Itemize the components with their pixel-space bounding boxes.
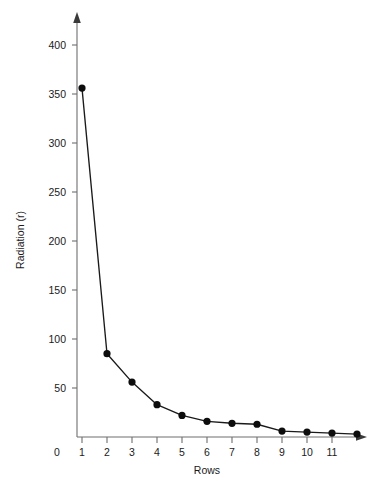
y-tick-label: 50: [54, 382, 66, 394]
y-tick-label: 100: [48, 333, 66, 345]
y-tick-label: 150: [48, 284, 66, 296]
y-tick-label: 250: [48, 186, 66, 198]
y-tick-label: 200: [48, 235, 66, 247]
x-tick-label: 2: [104, 446, 110, 458]
x-tick-label: 3: [129, 446, 135, 458]
y-tick-label: 400: [48, 39, 66, 51]
x-tick-label: 9: [279, 446, 285, 458]
x-tick-label: 5: [179, 446, 185, 458]
y-tick-label: 350: [48, 88, 66, 100]
data-point: [103, 350, 110, 357]
data-point: [228, 420, 235, 427]
data-point: [353, 430, 360, 437]
x-tick-label: 1: [79, 446, 85, 458]
x-tick-label: 8: [254, 446, 260, 458]
x-axis-title: Rows: [194, 464, 220, 476]
data-point: [128, 379, 135, 386]
radiation-vs-rows-line-chart: 50 100 150 200 250 300 350 400 0 1: [0, 0, 381, 487]
data-point: [78, 85, 85, 92]
data-point: [303, 429, 310, 436]
x-tick-label: 7: [229, 446, 235, 458]
data-point: [153, 401, 160, 408]
x-tick-label: 6: [204, 446, 210, 458]
y-tick-label: 300: [48, 137, 66, 149]
data-point: [278, 428, 285, 435]
x-tick-label: 0: [54, 446, 60, 458]
data-point: [178, 412, 185, 419]
data-point: [253, 421, 260, 428]
x-tick-label: 10: [301, 446, 313, 458]
chart-container: 50 100 150 200 250 300 350 400 0 1: [0, 0, 381, 487]
data-point: [328, 429, 335, 436]
x-tick-label: 4: [154, 446, 160, 458]
data-point: [203, 418, 210, 425]
y-axis-title: Radiation (r): [14, 211, 26, 269]
x-tick-label: 11: [327, 446, 338, 458]
